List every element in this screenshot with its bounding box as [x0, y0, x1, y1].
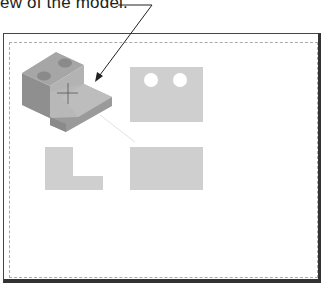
leader-line: [97, 5, 152, 79]
isometric-view[interactable]: [0, 0, 327, 289]
hole-icon: [58, 59, 72, 68]
hole-icon: [37, 72, 51, 81]
arrow-head-icon: [95, 72, 103, 82]
